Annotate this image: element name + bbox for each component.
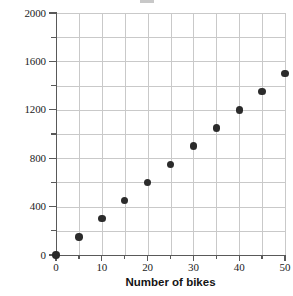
x-axis-tick-label: 0	[53, 262, 58, 273]
gridline-horizontal	[56, 182, 285, 183]
x-axis-tick-minor	[216, 255, 217, 259]
x-axis-tick-label: 10	[96, 262, 107, 273]
gridline-horizontal	[56, 207, 285, 208]
gridline-horizontal	[56, 86, 285, 87]
x-axis-tick-label: 30	[188, 262, 199, 273]
data-point	[190, 142, 197, 149]
x-axis-tick-minor	[170, 255, 171, 259]
x-axis-tick-minor	[261, 255, 262, 259]
gridline-horizontal	[56, 13, 285, 14]
x-axis-tick-minor	[124, 255, 125, 259]
y-axis-tick-label: 400	[30, 201, 46, 212]
data-point	[52, 251, 59, 258]
gridline-horizontal	[56, 231, 285, 232]
y-axis-tick-label: 1200	[24, 104, 46, 115]
y-axis-tick-label: 800	[30, 153, 46, 164]
data-point	[281, 70, 288, 77]
scatter-chart: 040080012001600200001020304050 Rental fe…	[0, 0, 293, 296]
x-axis-tick-label: 40	[234, 262, 245, 273]
gridline-horizontal	[56, 134, 285, 135]
y-axis-tick-major	[49, 12, 57, 13]
data-point	[98, 215, 105, 222]
y-axis-tick-label: 2000	[24, 8, 46, 19]
y-axis-tick-minor	[51, 230, 57, 231]
gridline-vertical	[285, 13, 286, 255]
y-axis-tick-major	[49, 109, 57, 110]
y-axis-tick-major	[49, 61, 57, 62]
x-axis-title: Number of bikes	[56, 276, 285, 289]
x-axis-tick-label: 20	[142, 262, 153, 273]
y-axis-tick-minor	[51, 182, 57, 183]
data-point	[213, 124, 220, 131]
data-point	[75, 233, 82, 240]
y-axis-tick-major	[49, 206, 57, 207]
data-point	[167, 161, 174, 168]
gridline-horizontal	[56, 61, 285, 62]
y-axis-tick-major	[49, 158, 57, 159]
y-axis-tick-minor	[51, 133, 57, 134]
y-axis-tick-label: 1600	[24, 56, 46, 67]
x-axis-tick-label: 50	[280, 262, 291, 273]
data-point	[236, 106, 243, 113]
x-axis-tick-minor	[78, 255, 79, 259]
y-axis-tick-minor	[51, 37, 57, 38]
title-remnant	[140, 0, 154, 3]
y-axis-tick-minor	[51, 85, 57, 86]
gridline-horizontal	[56, 158, 285, 159]
gridline-horizontal	[56, 110, 285, 111]
plot-area	[56, 13, 285, 255]
y-axis-tick-label: 0	[41, 250, 46, 261]
gridline-horizontal	[56, 37, 285, 38]
